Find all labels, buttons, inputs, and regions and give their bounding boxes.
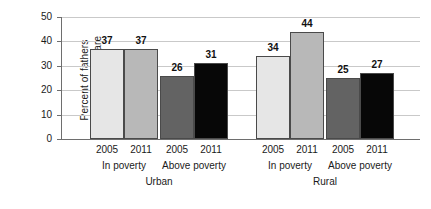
x-tick-label-year: 2005 (160, 144, 194, 155)
bar-urban-above-poverty-2005 (160, 76, 194, 139)
gridline-0 (62, 139, 420, 140)
bar-value-label: 37 (126, 36, 156, 46)
y-tick-label-30: 30 (30, 61, 52, 71)
bar-urban-in-poverty-2005 (90, 49, 124, 139)
bar-urban-above-poverty-2011 (194, 63, 228, 139)
bar-rural-in-poverty-2005 (256, 56, 290, 139)
x-region-label: Rural (275, 176, 375, 187)
bar-rural-above-poverty-2011 (360, 73, 394, 139)
x-tick-label-year: 2011 (290, 144, 324, 155)
x-tick-label-year: 2011 (360, 144, 394, 155)
x-group-label: Above poverty (144, 160, 244, 171)
bar-value-label: 44 (292, 19, 322, 29)
bar-value-label: 27 (362, 60, 392, 70)
x-tick-label-year: 2005 (326, 144, 360, 155)
bar-value-label: 26 (162, 63, 192, 73)
y-tick-label-0: 0 (30, 134, 52, 144)
y-tick-label-20: 20 (30, 85, 52, 95)
x-tick-label-year: 2011 (124, 144, 158, 155)
x-region-label: Urban (109, 176, 209, 187)
y-tick-label-40: 40 (30, 36, 52, 46)
bar-rural-in-poverty-2011 (290, 32, 324, 139)
x-group-label: Above poverty (310, 160, 410, 171)
bar-value-label: 31 (196, 50, 226, 60)
bar-value-label: 34 (258, 43, 288, 53)
bar-urban-in-poverty-2011 (124, 49, 158, 139)
bar-value-label: 37 (92, 36, 122, 46)
bar-value-label: 25 (328, 65, 358, 75)
bar-chart: Percent of fathers providing child care … (0, 0, 431, 209)
x-tick-label-year: 2005 (256, 144, 290, 155)
x-tick-label-year: 2011 (194, 144, 228, 155)
y-tick-label-10: 10 (30, 110, 52, 120)
y-tick-label-50: 50 (30, 12, 52, 22)
gridline-50 (62, 17, 420, 18)
bar-rural-above-poverty-2005 (326, 78, 360, 139)
x-tick-label-year: 2005 (90, 144, 124, 155)
